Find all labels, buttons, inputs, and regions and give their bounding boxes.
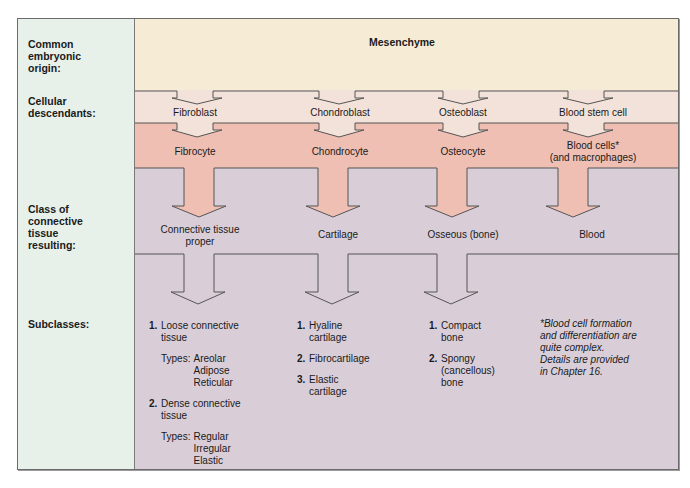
- subclass-item: 1. Compact bone: [429, 320, 529, 344]
- class-connective-tissue-proper: Connective tissue proper: [145, 224, 255, 248]
- row-label-class: Class of connective tissue resulting:: [28, 203, 83, 251]
- subclass-item: 1. Hyaline cartilage: [297, 320, 397, 344]
- class-cartilage: Cartilage: [298, 229, 378, 241]
- origin-mesenchyme: Mesenchyme: [369, 36, 435, 48]
- subclass-types: Types: Regular Irregular Elastic: [161, 431, 269, 467]
- class-osseous: Osseous (bone): [413, 229, 513, 241]
- cell-blood-cells: Blood cells* (and macrophages): [538, 140, 648, 164]
- subclasses-bone: 1. Compact bone 2. Spongy (cancellous) b…: [429, 320, 529, 398]
- cell-fibrocyte: Fibrocyte: [155, 146, 235, 158]
- descendant-blood-stem-cell: Blood stem cell: [543, 107, 643, 119]
- descendant-fibroblast: Fibroblast: [155, 107, 235, 119]
- subclass-types: Types: Areolar Adipose Reticular: [161, 353, 269, 389]
- subclass-item: 2. Fibrocartilage: [297, 353, 397, 365]
- subclass-item: 1. Loose connective tissue: [149, 320, 269, 344]
- class-blood: Blood: [552, 229, 632, 241]
- row-label-subclasses: Subclasses:: [28, 318, 89, 330]
- descendant-chondroblast: Chondroblast: [295, 107, 385, 119]
- subclass-item: 3. Elastic cartilage: [297, 374, 397, 398]
- cell-chondrocyte: Chondrocyte: [295, 146, 385, 158]
- cell-osteocyte: Osteocyte: [423, 146, 503, 158]
- row-label-origin: Common embryonic origin:: [28, 38, 81, 74]
- subclasses-cartilage: 1. Hyaline cartilage 2. Fibrocartilage 3…: [297, 320, 397, 407]
- row-label-descendants: Cellular descendants:: [28, 95, 96, 119]
- blood-footnote: *Blood cell formation and differentiatio…: [540, 318, 670, 378]
- subclass-item: 2. Dense connective tissue: [149, 398, 269, 422]
- subclasses-connective-tissue: 1. Loose connective tissue Types: Areola…: [149, 320, 269, 476]
- descendant-osteoblast: Osteoblast: [423, 107, 503, 119]
- subclass-item: 2. Spongy (cancellous) bone: [429, 353, 529, 389]
